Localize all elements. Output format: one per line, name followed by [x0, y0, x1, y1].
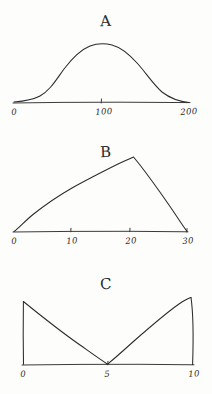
panel-b-xtick-label-20: 20 — [125, 235, 137, 246]
panel-c-left-limb — [23, 302, 107, 365]
panel-b-xtick-label-0: 0 — [11, 236, 17, 246]
panel-c-right-limb — [108, 298, 191, 365]
panel-c-xtick-label-10: 10 — [188, 368, 200, 379]
panel-a-xtick-label-0: 0 — [11, 107, 17, 117]
panel-c: C 0 5 10 — [0, 265, 212, 394]
panel-c-xtick-label-5: 5 — [104, 369, 110, 379]
figure-sheet: A 0 100 200 B 0 10 20 30 — [0, 0, 212, 394]
panel-b-xtick-label-10: 10 — [66, 235, 78, 246]
panel-a: A 0 100 200 — [0, 0, 212, 135]
panel-c-right-edge — [191, 298, 193, 365]
panel-b-curve — [14, 157, 187, 232]
panel-a-xtick-label-100: 100 — [95, 106, 113, 117]
panel-a-letter: A — [100, 12, 112, 30]
panel-b-x-axis — [13, 231, 188, 232]
panel-c-xtick-label-0: 0 — [20, 369, 26, 379]
panel-b-xtick-label-30: 30 — [182, 235, 194, 246]
panel-c-letter: C — [100, 275, 113, 293]
panel-a-xtick-label-200: 200 — [180, 106, 198, 117]
panel-b-letter: B — [100, 143, 112, 161]
panel-a-curve — [14, 44, 189, 103]
panel-b: B 0 10 20 30 — [0, 135, 212, 265]
